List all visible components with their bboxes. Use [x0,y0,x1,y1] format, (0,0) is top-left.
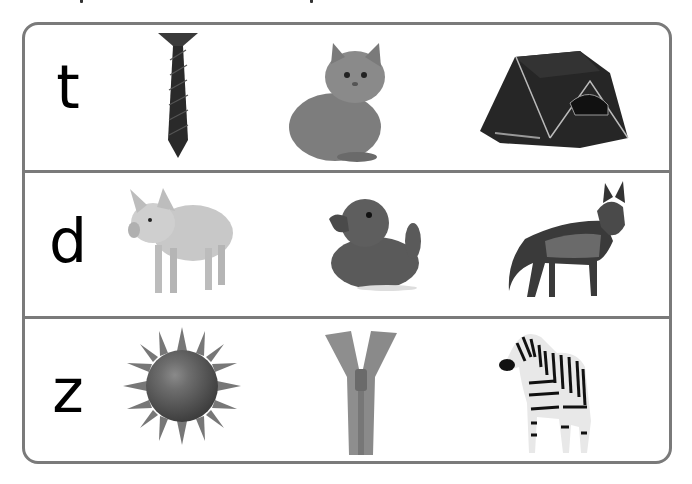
kitten-image [287,39,389,163]
row-letter: t [43,57,93,117]
cropped-heading-fragment [60,0,400,6]
tent-image [480,43,630,153]
row-letter: z [43,361,93,421]
zipper-image [325,329,397,455]
sun-image [123,327,241,445]
dog-image [505,181,633,303]
worksheet-frame: t d [22,22,672,464]
row-d: d [25,173,669,316]
row-letter: d [43,211,93,271]
row-t: t [25,25,669,170]
zebra-image [497,323,595,459]
row-z: z [25,319,669,461]
pig-image [125,183,237,301]
tie-image [153,30,203,162]
duck-image [325,189,421,291]
